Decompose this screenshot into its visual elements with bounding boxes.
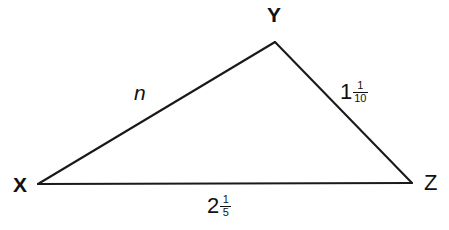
vertex-label-y: Y	[267, 4, 281, 25]
denominator-yz: 10	[353, 93, 367, 105]
vertex-label-x: X	[13, 174, 27, 195]
side-label-xz: 2 1 5	[207, 194, 231, 218]
mixed-number-yz: 1 1 10	[340, 80, 368, 104]
fraction-yz: 1 10	[353, 80, 367, 104]
side-yz-line	[275, 42, 412, 183]
side-label-n: n	[134, 82, 146, 103]
numerator-xz: 1	[222, 194, 230, 206]
denominator-xz: 5	[222, 207, 230, 219]
side-xz-line	[38, 183, 412, 184]
side-xy-line	[38, 42, 275, 184]
whole-part-yz: 1	[340, 81, 352, 103]
numerator-yz: 1	[356, 80, 364, 92]
whole-part-xz: 2	[207, 195, 219, 217]
side-label-yz: 1 1 10	[340, 80, 368, 104]
fraction-xz: 1 5	[220, 194, 231, 218]
triangle-figure: X Y Z n 1 1 10 2 1 5	[0, 0, 449, 230]
mixed-number-xz: 2 1 5	[207, 194, 231, 218]
vertex-label-z: Z	[424, 172, 437, 194]
